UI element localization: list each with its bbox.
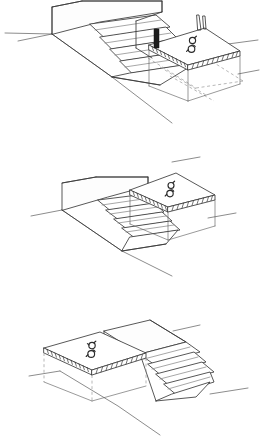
panel-lift-lowered (0, 0, 260, 148)
concrete-stair-flight (140, 342, 214, 401)
panel-bottom-illustration (0, 298, 260, 446)
drawing-sheet (0, 0, 260, 446)
panel-middle-illustration (0, 148, 260, 298)
panel-lift-raised (0, 148, 260, 298)
panel-lift-mirrored (0, 298, 260, 446)
panel-top-illustration (0, 0, 260, 148)
